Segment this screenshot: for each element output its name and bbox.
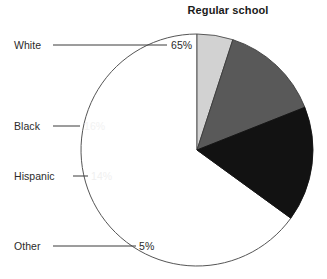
- category-label-white: White: [14, 39, 41, 51]
- category-label-other: Other: [14, 240, 41, 252]
- pie-chart-canvas: [0, 0, 327, 279]
- value-label-white: 65%: [171, 39, 192, 51]
- value-label-other: 5%: [139, 240, 154, 252]
- value-label-hispanic: 14%: [91, 170, 112, 182]
- page-title: Regular school: [148, 4, 308, 16]
- value-label-black: 16%: [84, 120, 105, 132]
- category-label-hispanic: Hispanic: [14, 170, 55, 182]
- category-label-black: Black: [14, 120, 40, 132]
- pie-chart-figure: Regular school White Black Hispanic Othe…: [0, 0, 327, 279]
